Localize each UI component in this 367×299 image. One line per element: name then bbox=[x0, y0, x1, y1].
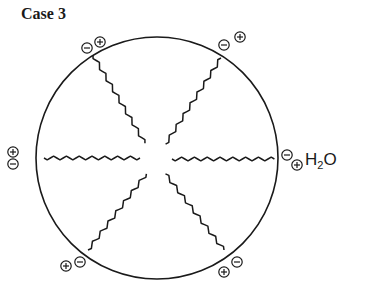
micelle-boundary-circle bbox=[36, 37, 278, 279]
water-label-o: O bbox=[323, 150, 336, 169]
hydrocarbon-chain-left bbox=[44, 156, 140, 160]
hydrocarbon-chain-lower-right bbox=[165, 174, 224, 250]
hydrocarbon-chain-lower-left bbox=[88, 174, 146, 250]
negative-charge-icon bbox=[75, 257, 85, 267]
positive-charge-icon bbox=[61, 261, 71, 271]
hydrocarbon-chain-upper-right bbox=[166, 58, 221, 144]
water-label: H2O bbox=[305, 150, 337, 171]
hydrocarbon-chain-right bbox=[172, 157, 274, 161]
negative-charge-icon bbox=[282, 150, 292, 160]
positive-charge-icon bbox=[8, 147, 18, 157]
negative-charge-icon bbox=[219, 40, 229, 50]
hydrocarbon-chains bbox=[44, 55, 274, 250]
charge-symbols bbox=[8, 32, 302, 277]
positive-charge-icon bbox=[235, 32, 245, 42]
positive-charge-icon bbox=[292, 160, 302, 170]
positive-charge-icon bbox=[95, 37, 105, 47]
water-label-h: H bbox=[305, 150, 317, 169]
negative-charge-icon bbox=[82, 43, 92, 53]
hydrocarbon-chain-upper-left bbox=[93, 55, 145, 143]
negative-charge-icon bbox=[232, 257, 242, 267]
positive-charge-icon bbox=[219, 267, 229, 277]
negative-charge-icon bbox=[8, 159, 18, 169]
